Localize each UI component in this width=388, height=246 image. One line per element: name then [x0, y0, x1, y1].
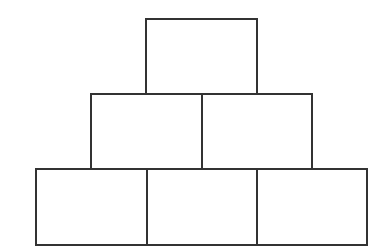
pyramid-block	[256, 168, 368, 246]
pyramid-block	[146, 168, 259, 246]
pyramid-block	[145, 18, 258, 95]
pyramid-block	[90, 93, 203, 170]
pyramid-block	[35, 168, 148, 246]
pyramid-block	[201, 93, 313, 170]
